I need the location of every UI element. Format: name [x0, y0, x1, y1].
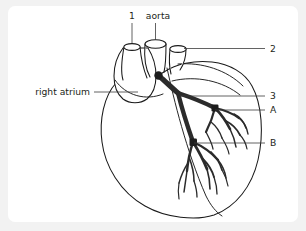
figure-container: 1 aorta right atrium 2 3 A B: [0, 0, 306, 231]
label-3: 3: [270, 90, 276, 101]
vessel-1-opening: [124, 44, 140, 51]
junction-node-b: [190, 139, 198, 147]
label-right-atrium: right atrium: [35, 86, 90, 97]
heart-diagram: 1 aorta right atrium 2 3 A B: [0, 0, 306, 231]
heart-outline-group: [101, 48, 261, 218]
label-a: A: [270, 104, 277, 115]
label-aorta: aorta: [146, 10, 170, 21]
label-b: B: [270, 137, 276, 148]
vessel-2-opening: [170, 46, 186, 53]
coronary-origin-node: [154, 71, 162, 79]
aorta-tube-right: [164, 44, 166, 72]
junction-node-a: [212, 105, 219, 112]
label-2: 2: [270, 43, 276, 54]
label-1: 1: [129, 10, 135, 21]
aorta-opening: [145, 40, 166, 48]
